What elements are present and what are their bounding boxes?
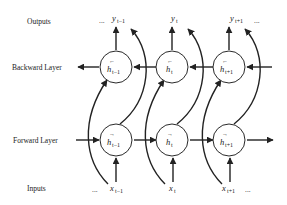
backward-node-1: ← h t−1 (100, 51, 132, 83)
inputs-label: Inputs (27, 184, 46, 193)
svg-text:x: x (109, 183, 114, 193)
output-2: y t (170, 13, 178, 24)
svg-text:t−1: t−1 (112, 69, 120, 75)
bidirectional-rnn-diagram: Outputs Backward Layer Forward Layer Inp… (0, 0, 287, 205)
svg-text:t: t (176, 18, 178, 24)
forward-node-3: → h t+1 (213, 124, 245, 156)
svg-text:t−1: t−1 (112, 142, 120, 148)
svg-text:t+1: t+1 (225, 69, 233, 75)
svg-text:t: t (174, 188, 176, 194)
backward-layer-label: Backward Layer (12, 63, 62, 72)
svg-text:t−1: t−1 (117, 18, 125, 24)
forward-layer-label: Forward Layer (13, 136, 58, 145)
outputs-label: Outputs (27, 17, 51, 26)
svg-text:t+1: t+1 (235, 18, 243, 24)
backward-node-2: ← h t (156, 51, 188, 83)
svg-text:h: h (220, 137, 224, 147)
svg-text:h: h (166, 137, 170, 147)
svg-text:h: h (107, 137, 111, 147)
svg-text:t+1: t+1 (227, 188, 235, 194)
svg-text:y: y (111, 13, 116, 23)
svg-text:t+1: t+1 (225, 142, 233, 148)
svg-text:x: x (168, 183, 173, 193)
input-2: x t (168, 183, 176, 194)
svg-text:h: h (107, 64, 111, 74)
inputs-ellipsis-left: ... (92, 185, 98, 194)
svg-text:y: y (229, 13, 234, 23)
svg-text:t−1: t−1 (115, 188, 123, 194)
output-3: y t+1 (229, 13, 243, 24)
svg-text:h: h (166, 64, 170, 74)
input-1: x t−1 (109, 183, 123, 194)
svg-text:h: h (220, 64, 224, 74)
inputs-ellipsis-right: ... (245, 185, 251, 194)
svg-text:x: x (221, 183, 226, 193)
svg-text:y: y (170, 13, 175, 23)
outputs-ellipsis-left: ... (99, 16, 105, 25)
backward-node-3: ← h t+1 (213, 51, 245, 83)
outputs-ellipsis-right: ... (254, 16, 260, 25)
output-1: y t−1 (111, 13, 125, 24)
forward-node-1: → h t−1 (100, 124, 132, 156)
input-3: x t+1 (221, 183, 235, 194)
forward-node-2: → h t (156, 124, 188, 156)
